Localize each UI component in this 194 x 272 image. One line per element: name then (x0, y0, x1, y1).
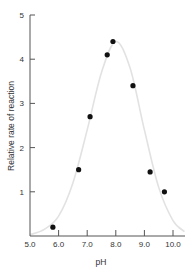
x-tick-label: 7.0 (82, 240, 94, 249)
x-tick-label: 5.0 (24, 240, 36, 249)
y-tick-label: 3 (20, 99, 25, 108)
y-tick-label: 5 (20, 11, 25, 20)
x-tick-label: 6.0 (53, 240, 65, 249)
data-point (148, 169, 153, 174)
axes (30, 15, 185, 236)
data-points (50, 39, 167, 230)
y-tick-label: 4 (20, 55, 25, 64)
y-ticks: 12345 (20, 11, 35, 197)
x-tick-label: 10.0 (165, 240, 181, 249)
fitted-curve (30, 41, 184, 234)
y-tick-label: 2 (20, 144, 25, 153)
data-point (130, 83, 135, 88)
data-point (50, 225, 55, 230)
data-point (110, 39, 115, 44)
y-tick-label: 1 (20, 188, 25, 197)
data-point (76, 167, 81, 172)
chart: 12345 5.06.07.08.09.010.0 Relative rate … (0, 0, 194, 272)
data-point (162, 189, 167, 194)
x-tick-label: 9.0 (139, 240, 151, 249)
data-point (87, 114, 92, 119)
x-tick-label: 8.0 (110, 240, 122, 249)
data-point (105, 52, 110, 57)
y-axis-label: Relative rate of reaction (6, 81, 16, 171)
x-ticks: 5.06.07.08.09.010.0 (24, 230, 181, 249)
x-axis-label: pH (96, 257, 107, 267)
